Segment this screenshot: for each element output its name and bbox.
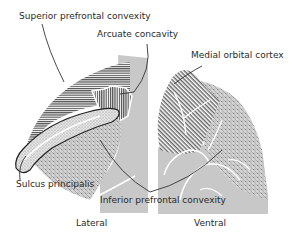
label-medial-orbital-cortex: Medial orbital cortex — [191, 51, 284, 60]
ventral-view — [158, 70, 268, 214]
label-lateral-view: Lateral — [76, 219, 107, 228]
label-arcuate-concavity: Arcuate concavity — [97, 30, 178, 39]
leader-superior-convexity — [42, 24, 64, 82]
label-sulcus-principalis: Sulcus principalis — [16, 180, 94, 189]
label-inferior-prefrontal-convexity: Inferior prefrontal convexity — [100, 196, 226, 205]
label-superior-prefrontal-convexity: Superior prefrontal convexity — [19, 12, 151, 21]
lateral-view — [16, 55, 148, 213]
label-ventral-view: Ventral — [194, 219, 226, 228]
